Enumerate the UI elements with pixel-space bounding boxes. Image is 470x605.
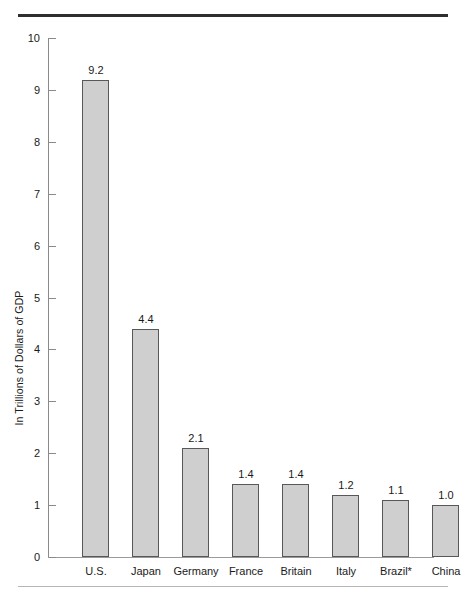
- y-tick-label: 1: [6, 500, 40, 511]
- y-tick-label: 7: [6, 188, 40, 199]
- bar-value-label: 9.2: [71, 65, 121, 76]
- bar[interactable]: [382, 500, 409, 557]
- bar-value-label: 1.4: [271, 469, 321, 480]
- y-tick-label: 4: [6, 344, 40, 355]
- bar[interactable]: [82, 80, 109, 557]
- bar-group[interactable]: 1.2Italy: [321, 38, 371, 557]
- bar-group[interactable]: 1.4France: [221, 38, 271, 557]
- y-tick-label: 8: [6, 136, 40, 147]
- x-category-label: U.S.: [71, 566, 121, 577]
- bar-group[interactable]: 1.0China: [421, 38, 470, 557]
- y-tick-label: 0: [6, 552, 40, 563]
- x-category-label: France: [221, 566, 271, 577]
- bar[interactable]: [182, 448, 209, 557]
- bar-group[interactable]: 2.1Germany: [171, 38, 221, 557]
- x-category-label: Germany: [171, 566, 221, 577]
- y-axis-title: In Trillions of Dollars of GDP: [13, 213, 29, 503]
- y-tick-label: 6: [6, 240, 40, 251]
- bar[interactable]: [282, 484, 309, 557]
- bar-group[interactable]: 9.2U.S.: [71, 38, 121, 557]
- bar[interactable]: [132, 329, 159, 557]
- bar-group[interactable]: 1.1Brazil*: [371, 38, 421, 557]
- x-axis-baseline: [48, 557, 434, 558]
- y-tick-label: 9: [6, 84, 40, 95]
- top-rule-divider: [18, 14, 448, 17]
- bar-value-label: 1.0: [421, 490, 470, 501]
- bar[interactable]: [432, 505, 459, 557]
- y-tick-label: 10: [6, 33, 40, 44]
- bar-group[interactable]: 4.4Japan: [121, 38, 171, 557]
- x-category-label: Japan: [121, 566, 171, 577]
- bar-value-label: 2.1: [171, 433, 221, 444]
- bar-series: 9.2U.S.4.4Japan2.1Germany1.4France1.4Bri…: [49, 38, 448, 557]
- x-category-label: Britain: [271, 566, 321, 577]
- bar[interactable]: [332, 495, 359, 557]
- y-tick-label: 2: [6, 448, 40, 459]
- bar-value-label: 1.4: [221, 469, 271, 480]
- y-tick-mark: [49, 557, 56, 558]
- bottom-rule-divider: [18, 586, 448, 587]
- gdp-bar-chart: In Trillions of Dollars of GDP 012345678…: [0, 0, 470, 605]
- bar-value-label: 4.4: [121, 314, 171, 325]
- bar-value-label: 1.1: [371, 485, 421, 496]
- x-category-label: China: [421, 566, 470, 577]
- x-category-label: Brazil*: [371, 566, 421, 577]
- x-category-label: Italy: [321, 566, 371, 577]
- bar-group[interactable]: 1.4Britain: [271, 38, 321, 557]
- y-tick-label: 5: [6, 292, 40, 303]
- bar[interactable]: [232, 484, 259, 557]
- y-tick-label: 3: [6, 396, 40, 407]
- plot-area: 012345678910 9.2U.S.4.4Japan2.1Germany1.…: [49, 38, 448, 557]
- bar-value-label: 1.2: [321, 480, 371, 491]
